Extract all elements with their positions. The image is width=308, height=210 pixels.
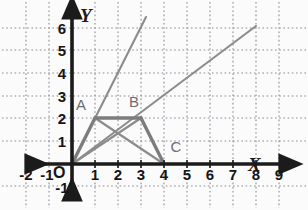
x-tick-label--1: -1 [39, 167, 55, 182]
x-tick-label-3: 3 [133, 167, 149, 182]
x-tick-label-7: 7 [225, 167, 241, 182]
point-label-b: B [127, 94, 141, 109]
y-axis-label: Y [80, 6, 92, 25]
x-tick-label-4: 4 [156, 167, 172, 182]
shallow-ray [72, 26, 256, 164]
y-tick-label--1: -1 [54, 180, 70, 195]
y-tick-label-4: 4 [54, 66, 70, 81]
point-label-a: A [74, 97, 88, 112]
y-tick-label-3: 3 [54, 89, 70, 104]
x-tick-label-6: 6 [202, 167, 218, 182]
coordinate-plot: X Y O -2 -1 1 2 3 4 5 6 7 8 9 6 5 4 3 2 … [0, 0, 308, 210]
x-tick-label-8: 8 [248, 167, 264, 182]
point-label-c: C [169, 139, 183, 154]
y-tick-label-5: 5 [54, 43, 70, 58]
y-tick-label-2: 2 [54, 111, 70, 126]
x-tick-label-9: 9 [271, 167, 287, 182]
y-tick-label-1: 1 [54, 134, 70, 149]
y-tick-label-6: 6 [54, 21, 70, 36]
x-tick-label-2: 2 [110, 167, 126, 182]
x-tick-label-1: 1 [87, 167, 103, 182]
x-tick-label-5: 5 [179, 167, 195, 182]
x-tick-label--2: -2 [18, 167, 34, 182]
